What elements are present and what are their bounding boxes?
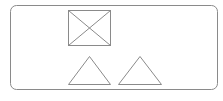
outer-frame xyxy=(11,6,218,90)
diagram-canvas xyxy=(0,0,223,101)
triangle-left xyxy=(69,57,111,85)
crossed-box xyxy=(69,11,111,46)
triangle-right xyxy=(119,57,162,85)
